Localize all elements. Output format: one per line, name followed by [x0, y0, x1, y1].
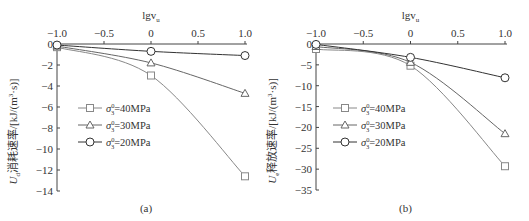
y-tick-label: −12 — [36, 164, 53, 176]
square-marker-icon — [87, 105, 94, 112]
x-tick-label: 0 — [408, 27, 414, 39]
legend-label: σ03=30MPa — [361, 119, 406, 133]
x-axis-label-sub: u — [156, 16, 160, 24]
x-tick-label: −0.5 — [94, 27, 114, 39]
y-tick-label: −8 — [41, 122, 53, 134]
square-marker-icon — [502, 163, 509, 170]
x-tick-label: 1.0 — [238, 27, 252, 39]
y-axis-label: Ud消耗速率/[kJ/(m3·s)] — [6, 78, 22, 184]
legend-text: =20MPa — [369, 137, 406, 148]
y-tick-label: −10 — [295, 80, 313, 92]
y-tick-label: −25 — [295, 142, 313, 154]
legend-label: σ03=40MPa — [106, 102, 151, 116]
triangle-marker-icon — [501, 130, 509, 137]
panel-label: (a) — [140, 202, 153, 215]
circle-marker-icon — [86, 138, 94, 146]
y-axis-label: Ue释放速率/[kJ/(m3·s)] — [265, 78, 281, 184]
x-tick-label: 1.0 — [498, 27, 512, 39]
legend-label: σ03=20MPa — [106, 136, 151, 150]
y-tick-label: 0 — [48, 38, 54, 50]
y-label-text: 释放速率/[kJ/(m — [265, 97, 279, 173]
x-axis-label: lgvu — [142, 9, 160, 24]
y-tick-label: −30 — [295, 163, 313, 175]
y-tick-label: −4 — [41, 80, 53, 92]
circle-marker-icon — [241, 52, 249, 60]
panel-label: (b) — [399, 202, 412, 215]
legend-label: σ03=20MPa — [361, 136, 406, 150]
y-tick-label: −15 — [295, 101, 313, 113]
y-tick-label: −35 — [295, 184, 313, 196]
legend-label: σ03=40MPa — [361, 102, 406, 116]
y-label-text: 消耗速率/[kJ/(m — [6, 97, 20, 173]
x-tick-label: 0.5 — [451, 27, 465, 39]
y-tick-label: −14 — [36, 185, 54, 197]
legend-text: =30MPa — [114, 120, 151, 131]
chart-figure: −1.0−0.500.51.0lgvu0−2−4−6−8−10−12−14Ud消… — [0, 0, 529, 221]
y-tick-label: −10 — [36, 143, 54, 155]
y-tick-label: −2 — [41, 59, 53, 71]
circle-marker-icon — [53, 41, 61, 49]
square-marker-icon — [242, 173, 249, 180]
y-tick-label: −5 — [300, 59, 312, 71]
square-marker-icon — [148, 72, 155, 79]
square-marker-icon — [342, 105, 349, 112]
y-label-end: ·s)] — [7, 78, 20, 93]
legend-text: =20MPa — [114, 137, 151, 148]
circle-marker-icon — [501, 74, 509, 82]
x-axis-label-sub: u — [416, 16, 420, 24]
circle-marker-icon — [147, 47, 155, 55]
x-axis-label: lgvu — [402, 9, 420, 24]
legend-text: =40MPa — [369, 103, 406, 114]
y-tick-label: −6 — [41, 101, 53, 113]
legend-label: σ03=30MPa — [106, 119, 151, 133]
x-tick-label: −0.5 — [353, 27, 373, 39]
circle-marker-icon — [407, 53, 415, 61]
series-line — [57, 47, 245, 176]
legend-text: =40MPa — [114, 103, 151, 114]
x-tick-label: 0.5 — [191, 27, 205, 39]
circle-marker-icon — [341, 138, 349, 146]
y-label-end: ·s)] — [266, 78, 279, 93]
chart-panel-a: −1.0−0.500.51.0lgvu0−2−4−6−8−10−12−14Ud消… — [6, 9, 252, 215]
x-tick-label: 0 — [148, 27, 154, 39]
circle-marker-icon — [312, 40, 320, 48]
y-tick-label: −20 — [295, 121, 313, 133]
legend-text: =30MPa — [369, 120, 406, 131]
chart-panel-b: −1.0−0.500.51.0lgvu0−5−10−15−20−25−30−35… — [265, 9, 512, 215]
